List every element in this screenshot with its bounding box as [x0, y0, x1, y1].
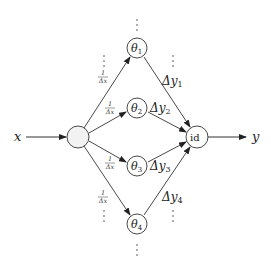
hidden-node-theta3: θ3: [127, 156, 147, 176]
svg-text:1: 1: [101, 189, 105, 197]
weight-in-4: 1 Δx: [98, 189, 108, 205]
weight-in-3: 1 Δx: [105, 155, 115, 171]
hidden-node-theta1: θ1: [127, 38, 147, 58]
svg-text:1: 1: [101, 69, 105, 77]
ellipsis-upper-right: [172, 55, 174, 67]
weight-out-3: Δy3: [149, 159, 171, 174]
hidden-node-theta2: θ2: [127, 98, 147, 118]
input-label-x: x: [14, 129, 22, 144]
hidden-node-theta4: θ4: [127, 214, 147, 234]
weight-out-4: Δy4: [161, 190, 183, 205]
output-node-label: id: [190, 132, 200, 143]
ellipsis-lower-left: [103, 210, 105, 222]
svg-text:Δx: Δx: [98, 77, 108, 85]
ellipsis-lower-right: [172, 210, 174, 222]
svg-text:Δx: Δx: [98, 197, 108, 205]
ellipsis-bottom: [136, 244, 138, 256]
input-node: [67, 126, 89, 148]
svg-text:1: 1: [108, 155, 112, 163]
svg-text:Δx: Δx: [105, 108, 115, 116]
edge-theta1-id: [144, 57, 190, 127]
edge-input-theta1: [84, 57, 130, 128]
weight-out-2: Δy2: [149, 101, 171, 116]
ellipsis-upper-left: [103, 55, 105, 67]
svg-text:Δx: Δx: [105, 163, 115, 171]
weight-out-1: Δy1: [161, 74, 183, 89]
output-label-y: y: [251, 129, 260, 144]
ellipsis-top: [136, 19, 138, 31]
weight-in-1: 1 Δx: [98, 69, 108, 85]
neural-network-diagram: x θ1 θ2 θ3 θ4 id y 1 Δx 1 Δx: [0, 0, 271, 271]
edge-theta4-id: [144, 147, 190, 215]
weight-in-2: 1 Δx: [105, 100, 115, 116]
svg-text:1: 1: [108, 100, 112, 108]
